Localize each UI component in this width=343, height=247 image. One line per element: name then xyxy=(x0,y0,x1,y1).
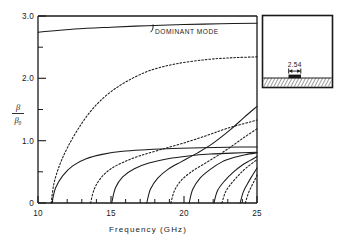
mode-curve-mode-4-dashed xyxy=(91,120,257,203)
plot-axes xyxy=(38,16,257,203)
mode-curve-mode-7-dashed xyxy=(171,129,257,203)
y-tick-label: 1.0 xyxy=(22,137,34,146)
y-axis-label: β β₀ xyxy=(12,102,24,125)
mode-curve-mode-9-solid xyxy=(214,157,257,203)
x-tick-label: 10 xyxy=(33,209,43,218)
arrowhead-right-icon xyxy=(297,69,300,73)
y-tick-label: 3.0 xyxy=(22,12,34,21)
mode-curve-mode-2-dashed xyxy=(51,57,257,203)
annotation-label: DOMINANT MODE xyxy=(155,28,219,35)
figure-container: 3.0 2.0 1.0 0 10 15 20 25 β β₀ Frequency… xyxy=(0,0,343,247)
x-tick-label: 20 xyxy=(179,209,189,218)
mode-curve-mode-3-solid xyxy=(52,147,257,203)
x-axis-title: Frequency (GHz) xyxy=(109,225,187,234)
center-conductor-strip xyxy=(289,75,302,79)
dimension-indicator xyxy=(289,69,301,74)
y-axis-label-numerator: β xyxy=(15,102,21,112)
arrowhead-left-icon xyxy=(289,69,292,73)
mode-curve-mode-10-dashed xyxy=(222,160,257,203)
y-ticks xyxy=(38,16,46,203)
y-axis-label-denominator: β₀ xyxy=(13,115,21,125)
inset-waveguide-cross-section: 2.54 xyxy=(263,16,333,88)
mode-curve-mode-11-solid xyxy=(240,168,257,203)
annotation-dominant-mode: DOMINANT MODE xyxy=(151,25,219,35)
y-tick-label: 2.0 xyxy=(22,74,34,83)
mode-curves xyxy=(38,23,257,203)
mode-curve-mode-8-solid xyxy=(189,153,257,203)
y-tick-label: 0 xyxy=(29,199,34,208)
substrate-hatching xyxy=(263,78,331,87)
inset-dimension-label: 2.54 xyxy=(288,61,302,68)
x-tick-label: 25 xyxy=(252,209,262,218)
y-tick-labels: 3.0 2.0 1.0 0 xyxy=(22,12,34,208)
x-tick-label: 15 xyxy=(106,209,116,218)
mode-curve-mode-12-dashed xyxy=(245,175,257,203)
dispersion-diagram: 3.0 2.0 1.0 0 10 15 20 25 β β₀ Frequency… xyxy=(0,0,343,247)
mode-curve-dominant-mode xyxy=(38,23,257,32)
x-tick-labels: 10 15 20 25 xyxy=(33,209,262,218)
